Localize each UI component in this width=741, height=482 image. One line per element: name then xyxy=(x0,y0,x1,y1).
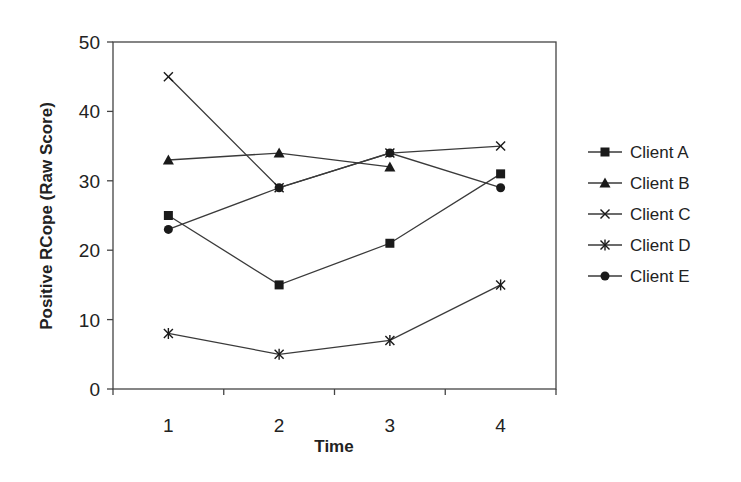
legend-label: Client C xyxy=(630,205,690,224)
circle-marker-icon xyxy=(496,183,505,192)
x-tick-label: 2 xyxy=(274,415,285,436)
series-line xyxy=(168,174,500,285)
x-marker-icon xyxy=(164,72,173,81)
x-tick-label: 4 xyxy=(495,415,506,436)
circle-marker-icon xyxy=(275,183,284,192)
series-client-b xyxy=(163,148,396,172)
legend-item: Client C xyxy=(588,205,690,224)
y-axis-title: Positive RCope (Raw Score) xyxy=(37,102,56,330)
legend-item: Client D xyxy=(588,236,690,255)
square-marker-icon xyxy=(164,211,173,220)
y-tick-label: 10 xyxy=(79,310,100,331)
square-marker-icon xyxy=(275,280,284,289)
legend-item: Client E xyxy=(588,267,690,286)
y-axis: 01020304050 xyxy=(79,32,113,400)
x-axis: 1234 xyxy=(113,389,556,436)
asterisk-marker-icon xyxy=(496,279,505,290)
series-client-a xyxy=(164,169,505,289)
square-marker-icon xyxy=(496,169,505,178)
circle-marker-icon xyxy=(601,272,610,281)
plot-area xyxy=(113,42,556,389)
y-tick-label: 20 xyxy=(79,240,100,261)
series-client-c xyxy=(164,72,505,192)
y-tick-label: 40 xyxy=(79,101,100,122)
square-marker-icon xyxy=(385,239,394,248)
series-line xyxy=(168,153,500,229)
x-tick-label: 3 xyxy=(385,415,396,436)
legend-item: Client A xyxy=(588,143,689,162)
series-client-d xyxy=(164,279,505,359)
series-client-e xyxy=(164,149,505,234)
square-marker-icon xyxy=(601,148,610,157)
legend-label: Client B xyxy=(630,174,690,193)
line-chart: 01020304050 1234 Positive RCope (Raw Sco… xyxy=(0,0,741,482)
legend-label: Client E xyxy=(630,267,690,286)
plot-border xyxy=(113,42,556,389)
circle-marker-icon xyxy=(164,225,173,234)
series-layer xyxy=(163,72,505,360)
legend-label: Client A xyxy=(630,143,689,162)
series-line xyxy=(168,285,500,354)
y-tick-label: 0 xyxy=(89,379,100,400)
legend: Client AClient BClient CClient DClient E xyxy=(588,143,690,286)
y-tick-label: 50 xyxy=(79,32,100,53)
y-tick-label: 30 xyxy=(79,171,100,192)
series-line xyxy=(168,77,500,188)
x-tick-label: 1 xyxy=(163,415,174,436)
triangle-marker-icon xyxy=(274,148,285,158)
circle-marker-icon xyxy=(385,149,394,158)
legend-label: Client D xyxy=(630,236,690,255)
legend-item: Client B xyxy=(588,174,690,193)
x-axis-title: Time xyxy=(314,437,353,456)
